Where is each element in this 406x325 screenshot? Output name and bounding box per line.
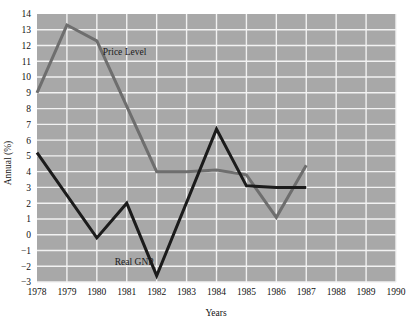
x-axis-title: Years (205, 308, 227, 318)
x-tick-label: 1988 (327, 287, 346, 297)
series-label: Real GNP (115, 257, 154, 267)
x-tick-label: 1989 (357, 287, 376, 297)
y-tick-label: 7 (26, 120, 31, 130)
chart-container: 14131211109876543210−1−2−3 1978197919801… (0, 0, 406, 325)
y-tick-label: 12 (22, 41, 32, 51)
x-tick-label: 1983 (177, 287, 196, 297)
y-tick-label: 0 (26, 230, 31, 240)
y-tick-label: 2 (26, 199, 31, 209)
y-tick-label: 1 (26, 214, 31, 224)
x-tick-label: 1987 (297, 287, 316, 297)
x-tick-label: 1986 (267, 287, 286, 297)
y-tick-label: 8 (26, 104, 31, 114)
y-tick-label: 11 (22, 57, 31, 67)
y-tick-label: 6 (26, 136, 31, 146)
x-tick-label: 1980 (87, 287, 106, 297)
x-tick-label: 1978 (28, 287, 47, 297)
x-tick-label: 1990 (387, 287, 406, 297)
series-label: Price Level (103, 47, 147, 57)
y-tick-label: 13 (22, 25, 32, 35)
y-tick-label: −3 (21, 277, 31, 287)
economic-indicators-line-chart: 14131211109876543210−1−2−3 1978197919801… (0, 0, 406, 325)
y-tick-label: −2 (21, 262, 31, 272)
y-tick-label: 10 (22, 72, 32, 82)
x-tick-label: 1979 (57, 287, 76, 297)
y-axis-title: Annual (%) (3, 141, 14, 186)
y-tick-label: 3 (26, 183, 31, 193)
x-tick-label: 1985 (237, 287, 256, 297)
y-tick-label: 4 (26, 167, 31, 177)
y-tick-label: 5 (26, 151, 31, 161)
y-tick-label: 14 (22, 9, 32, 19)
x-tick-label: 1984 (207, 287, 226, 297)
x-tick-label: 1982 (147, 287, 166, 297)
y-tick-label: 9 (26, 88, 31, 98)
y-tick-label: −1 (21, 246, 31, 256)
x-tick-label: 1981 (117, 287, 136, 297)
